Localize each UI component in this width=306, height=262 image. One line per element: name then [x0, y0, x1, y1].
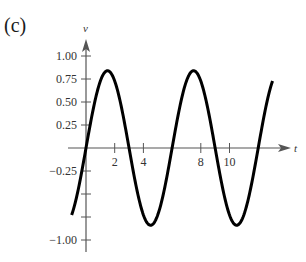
line-chart: tv248101.000.750.500.25−0.25−1.00 — [0, 0, 306, 262]
x-tick-label: 2 — [112, 155, 118, 169]
y-tick-label: −1.00 — [49, 233, 77, 247]
x-tick-label: 10 — [224, 155, 236, 169]
y-tick-label: 0.25 — [56, 118, 77, 132]
x-tick-label: 8 — [198, 155, 204, 169]
x-tick-label: 4 — [140, 155, 146, 169]
figure: (c) tv248101.000.750.500.25−0.25−1.00 — [0, 0, 306, 262]
x-axis-label: t — [294, 142, 298, 154]
y-tick-label: 1.00 — [56, 49, 77, 63]
y-axis-label: v — [83, 22, 88, 34]
y-tick-label: 0.75 — [56, 72, 77, 86]
y-tick-label: 0.50 — [56, 95, 77, 109]
y-tick-label: −0.25 — [49, 164, 77, 178]
